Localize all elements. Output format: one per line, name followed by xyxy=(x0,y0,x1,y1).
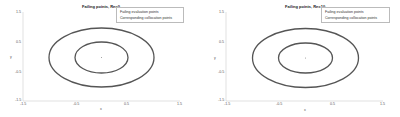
ytick: 1.5 xyxy=(219,10,224,14)
ytick: -0.5 xyxy=(15,70,21,74)
xtick: 1.5 xyxy=(380,102,385,106)
xtick: 0.5 xyxy=(330,102,335,106)
xtick: -1.5 xyxy=(20,102,26,106)
x-axis-label: x xyxy=(100,107,102,111)
xtick: -1.5 xyxy=(224,102,230,106)
y-axis-label: y xyxy=(10,55,12,59)
legend-item-collocation: Corresponding collocation points xyxy=(120,15,180,21)
x-axis-label: x xyxy=(304,108,306,112)
plot-title: Failing points, Re=0 xyxy=(82,4,120,9)
center-point xyxy=(101,57,102,58)
plot-title: Failing points, Re=10 xyxy=(285,4,325,9)
xtick: -0.5 xyxy=(73,102,79,106)
plot-left: Failing points, Re=0 Failing evaluation … xyxy=(0,0,200,117)
ytick: 0.5 xyxy=(219,40,224,44)
legend: Failing evaluation points Corresponding … xyxy=(321,7,390,23)
center-point xyxy=(305,58,306,59)
plot-right: Failing points, Re=10 Failing evaluation… xyxy=(200,0,400,117)
xtick: 1.5 xyxy=(177,102,182,106)
ytick: -0.5 xyxy=(218,70,224,74)
xtick: 0.5 xyxy=(124,102,129,106)
legend-item-collocation: Corresponding collocation points xyxy=(325,15,386,21)
ytick: 0.5 xyxy=(16,40,21,44)
ytick: 1.5 xyxy=(16,10,21,14)
y-axis-label: y xyxy=(214,56,216,60)
xtick: -0.5 xyxy=(276,102,282,106)
legend: Failing evaluation points Corresponding … xyxy=(116,7,184,23)
